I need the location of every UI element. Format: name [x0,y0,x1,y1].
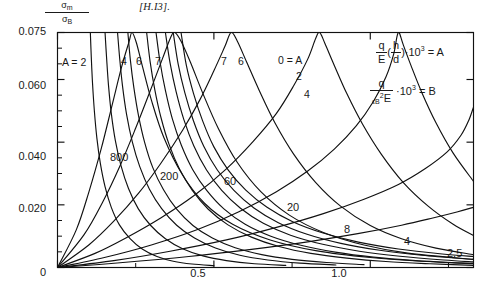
curve-a-2 [173,33,473,260]
figure-container: [H.I3]. σm σB 0.075 0.060 0.040 0.020 0 … [0,0,481,291]
curve-b-8 [58,32,474,267]
curve-b-800 [58,33,474,268]
curves-group [58,32,474,267]
curve-b-20 [58,32,474,267]
curve-b-2.5 [58,207,474,267]
plot-area [0,0,481,291]
axes-group [58,33,474,268]
curve-b-60 [58,32,474,267]
curve-a-0A [165,33,473,262]
curve-b-4 [58,107,474,267]
axis-frame [58,33,474,268]
curve-b-200 [58,32,474,267]
